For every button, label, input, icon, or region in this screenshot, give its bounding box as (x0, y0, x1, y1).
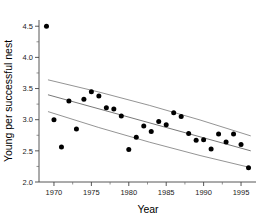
upper-confidence-band (48, 80, 251, 136)
lower-confidence-band (48, 112, 251, 168)
data-point (239, 142, 244, 147)
data-point (74, 127, 79, 132)
chart-canvas: 2.02.53.03.54.04.5 197019751980198519901… (0, 0, 266, 220)
data-point (186, 131, 191, 136)
data-point (141, 123, 146, 128)
plot-area: 2.02.53.03.54.04.5 197019751980198519901… (23, 20, 256, 197)
data-point (96, 94, 101, 99)
data-point (216, 132, 221, 137)
data-point (231, 132, 236, 137)
data-point (126, 147, 131, 152)
data-point (149, 129, 154, 134)
data-point (171, 110, 176, 115)
data-points (44, 24, 251, 170)
data-point (164, 122, 169, 127)
x-tick-label: 1985 (158, 188, 175, 197)
x-axis-ticks: 197019751980198519901995 (46, 182, 250, 197)
data-point (66, 99, 71, 104)
x-tick-label: 1980 (120, 188, 137, 197)
data-point (111, 107, 116, 112)
y-tick-label: 3.5 (23, 84, 33, 93)
data-point (179, 114, 184, 119)
data-point (104, 105, 109, 110)
lower-confidence-band (48, 112, 251, 168)
x-tick-label: 1970 (46, 188, 63, 197)
data-point (59, 145, 64, 150)
x-axis-title: Year (137, 203, 159, 215)
y-tick-label: 2.0 (23, 178, 33, 187)
data-point (89, 89, 94, 94)
data-point (194, 138, 199, 143)
data-point (246, 165, 251, 170)
data-point (119, 113, 124, 118)
data-point (44, 24, 49, 29)
x-tick-label: 1995 (233, 188, 250, 197)
y-tick-label: 4.5 (23, 22, 33, 31)
data-point (51, 117, 56, 122)
scatter-chart: 2.02.53.03.54.04.5 197019751980198519901… (0, 0, 266, 220)
x-tick-label: 1990 (195, 188, 212, 197)
upper-confidence-band (48, 80, 251, 136)
x-tick-label: 1975 (83, 188, 100, 197)
y-tick-label: 4.0 (23, 53, 33, 62)
y-tick-label: 2.5 (23, 147, 33, 156)
data-point (209, 146, 214, 151)
data-point (156, 119, 161, 124)
y-tick-label: 3.0 (23, 115, 33, 124)
data-point (201, 137, 206, 142)
data-point (224, 140, 229, 145)
data-point (81, 97, 86, 102)
y-axis-title: Young per successful nest (2, 40, 14, 162)
data-point (134, 135, 139, 140)
y-axis-ticks: 2.02.53.03.54.04.5 (23, 22, 39, 187)
